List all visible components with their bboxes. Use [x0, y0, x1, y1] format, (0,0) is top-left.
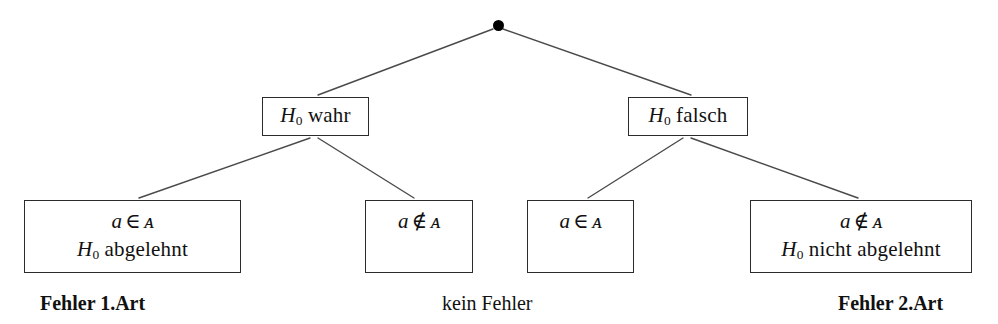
- edge-root-to-h0-true: [318, 29, 493, 95]
- caption-type-2-error: Fehler 2.Art: [838, 292, 943, 315]
- leaf-1-conclusion: H0 abgelehnt: [77, 236, 188, 264]
- edge-root-to-h0-false: [503, 29, 691, 95]
- decision-tree-diagram: H0 wahr H0 falsch a∈ᴀ H0 abgelehnt a∉ᴀ a…: [0, 0, 998, 324]
- leaf-4-set-membership: a∉ᴀ: [840, 208, 882, 236]
- leaf-1-set-membership: a∈ᴀ: [111, 208, 153, 236]
- root-node-dot: [493, 20, 504, 31]
- caption-no-error: kein Fehler: [442, 292, 533, 315]
- leaf-4-conclusion: H0 nicht abgelehnt: [781, 236, 940, 264]
- edge-h0-false-to-leaf3: [588, 138, 683, 198]
- node-leaf-a-notin-A[interactable]: a∉ᴀ: [365, 200, 473, 273]
- leaf-2-set-membership: a∉ᴀ: [398, 208, 440, 236]
- node-h0-false-label: H0 falsch: [649, 102, 728, 130]
- edge-h0-true-to-leaf1: [139, 138, 310, 198]
- edges-layer: [0, 0, 998, 324]
- leaf-3-set-membership: a∈ᴀ: [559, 208, 601, 236]
- caption-type-1-error: Fehler 1.Art: [40, 292, 145, 315]
- node-h0-true[interactable]: H0 wahr: [262, 97, 369, 136]
- node-h0-false[interactable]: H0 falsch: [628, 97, 748, 136]
- node-leaf-a-notin-A-not-rejected[interactable]: a∉ᴀ H0 nicht abgelehnt: [750, 200, 972, 273]
- node-leaf-a-in-A-rejected[interactable]: a∈ᴀ H0 abgelehnt: [24, 200, 241, 273]
- node-leaf-a-in-A[interactable]: a∈ᴀ: [527, 200, 634, 273]
- edge-h0-false-to-leaf4: [691, 138, 858, 198]
- edge-h0-true-to-leaf2: [318, 138, 414, 198]
- node-h0-true-label: H0 wahr: [280, 102, 350, 130]
